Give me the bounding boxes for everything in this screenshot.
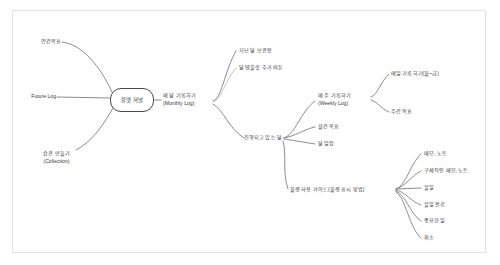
node-todo-done-label: 할일 완료	[424, 201, 446, 209]
edge-guide-todo-done	[396, 190, 421, 205]
node-memo-note-label: 메모, 노트	[424, 150, 447, 158]
node-memo-note[interactable]: 메모, 노트	[424, 150, 447, 158]
edge-guide-memo	[396, 154, 421, 189]
node-month-schedule-label: 달 일정	[318, 140, 335, 148]
edge-guide-cancel	[396, 192, 421, 238]
edge-monthly-template	[213, 68, 236, 102]
node-bullet-guide[interactable]: 불렛 사용 가이드(불렛 표시 방법)	[290, 186, 364, 194]
node-important-label: 중요한 일	[424, 217, 446, 225]
node-weekly-log-label: 매 주 기록하기	[318, 92, 351, 100]
edge-weekly-goal	[371, 100, 389, 112]
node-weekly-log[interactable]: 매 주 기록하기 (Weekly Log)	[318, 92, 351, 108]
node-cancel[interactable]: 취소	[424, 234, 434, 242]
node-daily-log-label: 매일 기록하기(월~금)	[391, 70, 439, 78]
node-future-log[interactable]: Future Log	[31, 93, 56, 101]
edge-current-monthlygoal	[284, 127, 315, 138]
edge-future-log	[57, 97, 110, 98]
edge-yearly-goal	[62, 42, 112, 92]
mindmap-canvas: 불렛 저널 연간목표 Future Log 습관 만들기 (Collection…	[0, 0, 500, 265]
node-future-log-label: Future Log	[31, 93, 56, 101]
node-specific-memo-note[interactable]: 구체적인 메모, 노트	[424, 167, 468, 175]
node-bullet-guide-label: 불렛 사용 가이드(불렛 표시 방법)	[290, 186, 364, 194]
node-last-month-archive-label: 지난 달 보관함	[239, 47, 272, 55]
root-node-label: 불렛 저널	[121, 96, 142, 104]
node-monthly-goal[interactable]: 월간 목표	[318, 123, 340, 131]
node-collection[interactable]: 습관 만들기 (Collection)	[43, 150, 70, 166]
edge-weekly-daily	[371, 74, 389, 97]
node-month-template-button[interactable]: 달 템플릿 추가 버튼	[239, 64, 283, 72]
node-collection-label: 습관 만들기	[43, 150, 70, 158]
edge-current-guide	[283, 141, 288, 189]
node-yearly-goal-label: 연간목표	[41, 38, 61, 46]
node-todo-done[interactable]: 할일 완료	[424, 201, 446, 209]
mindmap-edges	[0, 0, 500, 265]
node-collection-sublabel: (Collection)	[43, 158, 70, 166]
edge-guide-todo	[396, 188, 421, 189]
edge-monthly-archive	[213, 51, 236, 101]
node-specific-memo-note-label: 구체적인 메모, 노트	[424, 167, 468, 175]
node-weekly-goal-label: 주간 목표	[391, 108, 413, 116]
node-weekly-goal[interactable]: 주간 목표	[391, 108, 413, 116]
node-last-month-archive[interactable]: 지난 달 보관함	[239, 47, 272, 55]
node-todo[interactable]: 할일	[424, 184, 434, 192]
node-monthly-log-sublabel: (Monthly Log)	[163, 100, 196, 108]
node-important[interactable]: 중요한 일	[424, 217, 446, 225]
node-month-schedule[interactable]: 달 일정	[318, 140, 335, 148]
node-monthly-log-label: 매 달 기록하기	[163, 92, 196, 100]
node-current-month[interactable]: 진행되고 있는 달	[244, 134, 282, 142]
root-node[interactable]: 불렛 저널	[110, 88, 154, 112]
node-weekly-log-sublabel: (Weekly Log)	[318, 100, 351, 108]
node-monthly-log[interactable]: 매 달 기록하기 (Monthly Log)	[163, 92, 196, 108]
node-todo-label: 할일	[424, 184, 434, 192]
node-daily-log[interactable]: 매일 기록하기(월~금)	[391, 70, 439, 78]
edge-monthly-current	[213, 104, 244, 138]
node-cancel-label: 취소	[424, 234, 434, 242]
node-yearly-goal[interactable]: 연간목표	[41, 38, 61, 46]
node-month-template-button-label: 달 템플릿 추가 버튼	[239, 64, 283, 72]
node-monthly-goal-label: 월간 목표	[318, 123, 340, 131]
edge-current-schedule	[284, 139, 315, 144]
node-current-month-label: 진행되고 있는 달	[244, 134, 282, 142]
edge-collection	[76, 108, 113, 150]
